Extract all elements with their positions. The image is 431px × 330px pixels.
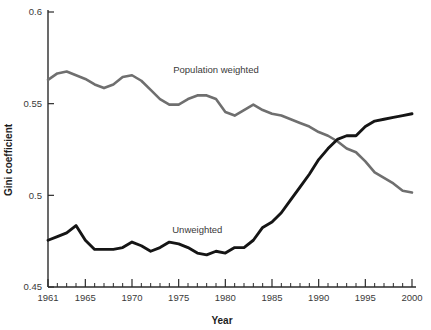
series-label-population-weighted: Population weighted [173,64,259,75]
y-tick-label: 0.5 [29,190,42,201]
y-axis: 0.450.50.550.6 [24,6,55,292]
y-tick-label: 0.45 [24,281,43,292]
x-tick-label: 1970 [121,292,142,303]
y-tick-label: 0.6 [29,6,42,17]
gini-coefficient-line-chart: 0.450.50.550.6 1961196519701975198019851… [0,0,431,330]
data-series-group [48,72,412,255]
x-axis-title: Year [211,315,232,326]
y-axis-title: Gini coefficient [3,123,14,196]
series-line-unweighted [48,114,412,255]
x-tick-label: 2000 [401,292,422,303]
x-tick-label: 1995 [355,292,376,303]
x-tick-label: 1980 [215,292,236,303]
x-tick-label: 1985 [261,292,282,303]
x-axis: 196119651970197519801985199019952000 [37,279,422,303]
x-tick-label: 1961 [37,292,58,303]
x-tick-label: 1990 [308,292,329,303]
series-line-population-weighted [48,72,412,193]
plot-area: 0.450.50.550.6 1961196519701975198019851… [0,0,431,330]
series-annotations: Population weightedUnweighted [172,64,259,235]
x-tick-label: 1965 [75,292,96,303]
x-tick-label: 1975 [168,292,189,303]
y-tick-label: 0.55 [24,98,43,109]
series-label-unweighted: Unweighted [172,224,222,235]
